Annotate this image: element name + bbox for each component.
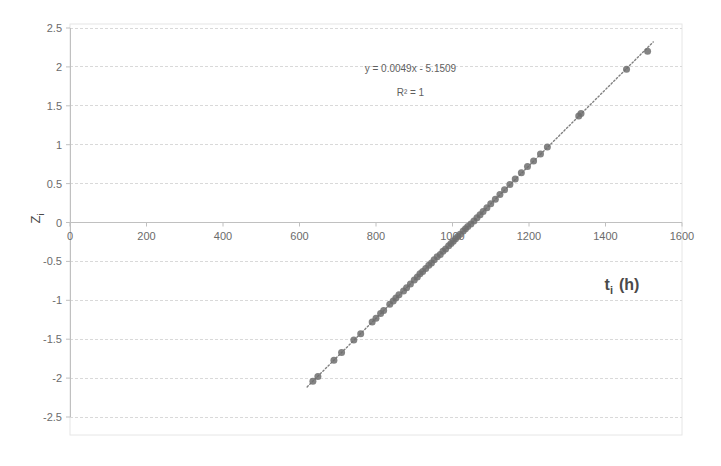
x-axis-title-subscript: i	[610, 284, 613, 296]
x-tick-label-800: 800	[367, 230, 385, 242]
y-tick-label-1.5: 1.5	[47, 100, 62, 112]
data-point	[357, 330, 364, 337]
y-tick-label-0.5: 0.5	[47, 178, 62, 190]
data-point	[623, 66, 630, 73]
data-point	[330, 357, 337, 364]
x-tick-label-1400: 1400	[593, 230, 617, 242]
trendline-equation-label: y = 0.0049x - 5.1509	[365, 63, 457, 74]
data-point	[544, 144, 551, 151]
data-point	[578, 110, 585, 117]
data-point	[380, 307, 387, 314]
y-axis-ticks: 2.521.510.50-0.5-1-1.5-2-2.5	[43, 22, 70, 423]
r-squared-label: R² = 1	[397, 87, 425, 98]
data-point	[524, 163, 531, 170]
data-point	[537, 151, 544, 158]
y-tick-label-1: 1	[56, 139, 62, 151]
data-point	[314, 373, 321, 380]
data-point	[501, 186, 508, 193]
x-axis-title-unit: (h)	[619, 276, 639, 293]
data-point	[338, 349, 345, 356]
x-tick-label-1200: 1200	[517, 230, 541, 242]
scatter-chart: 2.521.510.50-0.5-1-1.5-2-2.5020040060080…	[0, 0, 721, 466]
y-tick-label-2.5: 2.5	[47, 22, 62, 34]
y-tick-label-0: 0	[56, 217, 62, 229]
y-axis-title-text: Zi	[28, 214, 46, 224]
y-tick-label--2.5: -2.5	[43, 411, 62, 423]
x-tick-label-1600: 1600	[670, 230, 694, 242]
y-tick-label--1.5: -1.5	[43, 333, 62, 345]
data-point	[512, 175, 519, 182]
y-tick-label--1: -1	[52, 294, 62, 306]
data-point	[506, 181, 513, 188]
data-point	[350, 336, 357, 343]
y-tick-label-2: 2	[56, 61, 62, 73]
y-tick-label--2: -2	[52, 372, 62, 384]
y-tick-label--0.5: -0.5	[43, 255, 62, 267]
data-point	[518, 169, 525, 176]
chart-container: 2.521.510.50-0.5-1-1.5-2-2.5020040060080…	[0, 0, 721, 466]
x-tick-label-200: 200	[137, 230, 155, 242]
y-axis-title: Zi	[28, 214, 46, 224]
x-tick-label-400: 400	[214, 230, 232, 242]
x-tick-label-600: 600	[290, 230, 308, 242]
data-point	[530, 158, 537, 165]
data-point	[644, 48, 651, 55]
y-axis-title-subscript: i	[36, 214, 46, 216]
x-tick-label-0: 0	[67, 230, 73, 242]
